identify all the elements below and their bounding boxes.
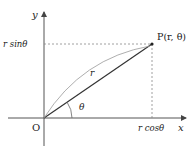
point-label: P(r, θ) xyxy=(157,31,186,42)
radius-segment xyxy=(44,44,152,118)
theta-label: θ xyxy=(79,102,85,112)
point-p xyxy=(150,42,153,45)
origin-label: O xyxy=(32,122,40,133)
x-axis-label: x xyxy=(178,122,184,133)
r-cos-theta-label: r cosθ xyxy=(138,123,164,133)
angle-arc xyxy=(67,102,72,118)
polar-diagram: y x O P(r, θ) r θ r sinθ r cosθ xyxy=(0,0,195,149)
r-sin-theta-label: r sinθ xyxy=(3,39,27,49)
r-label: r xyxy=(90,68,95,78)
y-axis-label: y xyxy=(31,9,38,20)
